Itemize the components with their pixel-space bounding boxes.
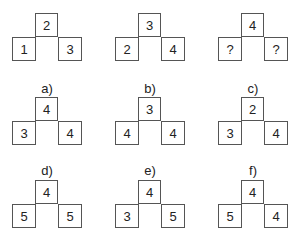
top-cell: 2	[241, 97, 264, 121]
question-figure: 4 ? ?	[218, 13, 288, 65]
top-cell: 4	[35, 97, 58, 121]
top-cell: 4	[241, 13, 264, 37]
option-figure-c[interactable]: 2 3 4	[218, 97, 288, 149]
left-cell: 5	[12, 204, 36, 228]
top-cell: 3	[138, 97, 161, 121]
right-cell: 5	[161, 204, 185, 228]
option-label-f: f)	[218, 163, 288, 178]
right-cell: 4	[58, 121, 82, 145]
option-figure-d[interactable]: 4 5 5	[12, 180, 82, 232]
right-cell-unknown: ?	[264, 37, 288, 61]
option-figure-a[interactable]: 4 3 4	[12, 97, 82, 149]
option-figure-e[interactable]: 4 3 5	[115, 180, 185, 232]
top-cell: 2	[35, 13, 58, 37]
option-figure-f[interactable]: 4 5 4	[218, 180, 288, 232]
right-cell: 5	[58, 204, 82, 228]
option-label-e: e)	[115, 163, 185, 178]
option-label-a: a)	[12, 81, 82, 96]
left-cell-unknown: ?	[218, 37, 242, 61]
right-cell: 4	[264, 204, 288, 228]
right-cell: 4	[161, 37, 185, 61]
option-figure-b[interactable]: 3 4 4	[115, 97, 185, 149]
right-cell: 3	[58, 37, 82, 61]
left-cell: 5	[218, 204, 242, 228]
top-cell: 4	[138, 180, 161, 204]
right-cell: 4	[264, 121, 288, 145]
example-figure-2: 3 2 4	[115, 13, 185, 65]
right-cell: 4	[161, 121, 185, 145]
left-cell: 3	[12, 121, 36, 145]
left-cell: 3	[218, 121, 242, 145]
option-label-b: b)	[115, 81, 185, 96]
top-cell: 4	[35, 180, 58, 204]
option-label-c: c)	[218, 81, 288, 96]
option-label-d: d)	[12, 163, 82, 178]
example-figure-1: 2 1 3	[12, 13, 82, 65]
left-cell: 1	[12, 37, 36, 61]
left-cell: 4	[115, 121, 139, 145]
top-cell: 3	[138, 13, 161, 37]
left-cell: 2	[115, 37, 139, 61]
left-cell: 3	[115, 204, 139, 228]
top-cell: 4	[241, 180, 264, 204]
